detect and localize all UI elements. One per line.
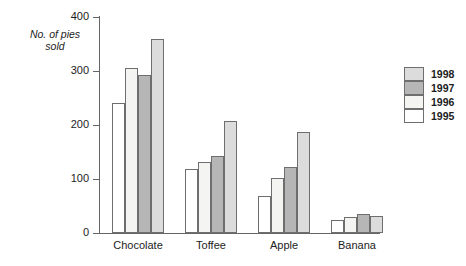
bar	[297, 132, 310, 233]
legend-swatch	[404, 81, 424, 95]
plot-area	[99, 17, 378, 233]
bar-group	[331, 17, 383, 233]
y-tick-label: 0	[29, 226, 89, 238]
bar	[284, 167, 297, 233]
bar-group	[185, 17, 237, 233]
bar	[357, 214, 370, 233]
y-tick-label: 200	[29, 118, 89, 130]
bar	[138, 75, 151, 233]
legend-label: 1998	[431, 67, 454, 81]
bar-chart: No. of pies sold 0100200300400 Chocolate…	[0, 0, 466, 266]
bar	[112, 103, 125, 233]
chart-legend: 1998199719961995	[404, 67, 464, 123]
y-tick-label: 400	[29, 10, 89, 22]
x-axis-label: Chocolate	[113, 239, 163, 251]
bar	[344, 217, 357, 233]
y-tick-label: 300	[29, 64, 89, 76]
legend-label: 1997	[431, 81, 454, 95]
y-tick-label: 100	[29, 172, 89, 184]
legend-label: 1996	[431, 95, 454, 109]
y-tick-mark	[93, 17, 99, 18]
y-tick-mark	[93, 125, 99, 126]
bar-group	[258, 17, 310, 233]
legend-swatch	[404, 95, 424, 109]
legend-swatch	[404, 67, 424, 81]
bar	[258, 196, 271, 233]
x-axis-label: Apple	[270, 239, 298, 251]
bar-group	[112, 17, 164, 233]
legend-swatch	[404, 109, 424, 123]
bar	[331, 220, 344, 234]
bar	[151, 39, 164, 233]
bar	[125, 68, 138, 233]
legend-label: 1995	[431, 109, 454, 123]
legend-item: 1998	[404, 67, 464, 81]
x-axis-label: Toffee	[196, 239, 226, 251]
bar	[271, 178, 284, 233]
y-axis-title: No. of pies sold	[16, 28, 94, 52]
bar	[370, 216, 383, 233]
bar	[224, 121, 237, 233]
y-tick-mark	[93, 179, 99, 180]
y-tick-mark	[93, 233, 99, 234]
legend-item: 1995	[404, 109, 464, 123]
x-axis-line	[99, 233, 380, 234]
x-axis-label: Banana	[338, 239, 376, 251]
legend-item: 1996	[404, 95, 464, 109]
legend-item: 1997	[404, 81, 464, 95]
bar	[211, 156, 224, 233]
bar	[185, 169, 198, 233]
y-tick-mark	[93, 71, 99, 72]
bar	[198, 162, 211, 233]
